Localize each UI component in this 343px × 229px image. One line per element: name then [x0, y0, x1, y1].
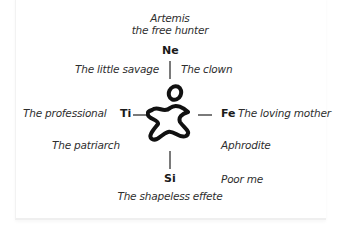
bottom-right-label: Poor me: [221, 173, 263, 185]
connector-right: [198, 114, 212, 116]
top-title-line2: the free hunter: [110, 24, 230, 36]
left-label: The professional: [23, 107, 107, 119]
right-label: The loving mother: [238, 107, 331, 119]
connector-left: [133, 114, 147, 116]
running-figure-icon: [146, 84, 194, 146]
connector-top: [169, 61, 171, 79]
lower-right-label: Aphrodite: [221, 139, 271, 151]
upper-left-label: The little savage: [75, 63, 159, 75]
function-si: Si: [164, 172, 176, 185]
bottom-label: The shapeless effete: [100, 190, 240, 202]
function-fe: Fe: [221, 107, 236, 120]
function-ne: Ne: [162, 44, 179, 57]
connector-bottom: [169, 151, 171, 169]
upper-right-label: The clown: [181, 63, 232, 75]
top-title-line1: Artemis: [120, 12, 220, 24]
lower-left-label: The patriarch: [52, 139, 120, 151]
function-ti: Ti: [120, 107, 131, 120]
